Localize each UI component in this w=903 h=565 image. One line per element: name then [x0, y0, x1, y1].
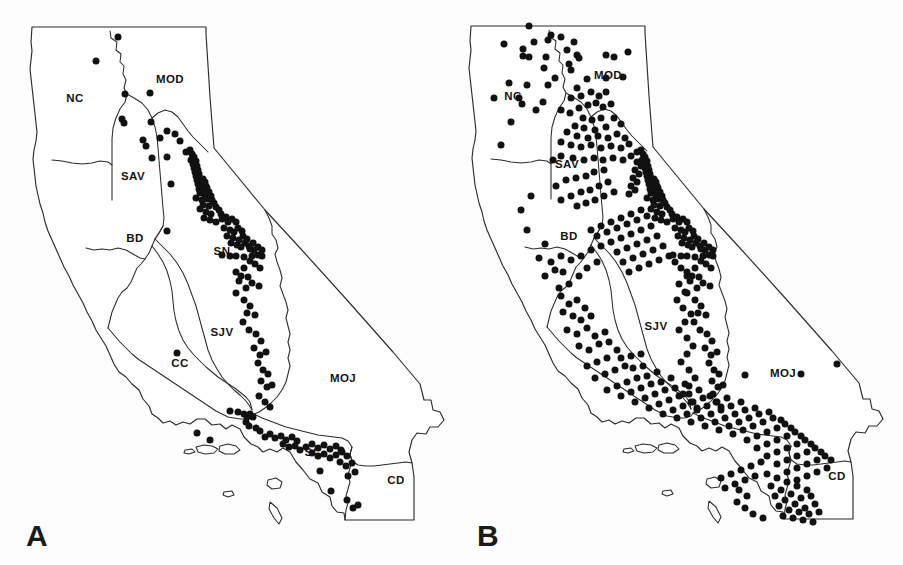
occurrence-dot — [560, 309, 567, 316]
occurrence-dot — [286, 444, 293, 451]
occurrence-dot — [603, 89, 610, 96]
occurrence-dot — [812, 445, 819, 452]
occurrence-dot — [778, 487, 785, 494]
occurrence-dot — [756, 411, 763, 418]
region-label-cc: CC — [171, 357, 188, 369]
occurrence-dot — [595, 133, 602, 140]
occurrence-dot — [786, 507, 793, 514]
occurrence-dot — [706, 360, 713, 367]
occurrence-dot — [652, 391, 659, 398]
occurrence-dot — [618, 145, 625, 152]
occurrence-dot — [748, 463, 755, 470]
occurrence-dot — [543, 54, 550, 61]
occurrence-dot — [558, 139, 565, 146]
occurrence-dot — [684, 219, 691, 226]
occurrence-dot — [578, 317, 585, 324]
island-san-nicolas — [662, 490, 673, 496]
occurrence-dot — [604, 387, 611, 394]
occurrence-dot — [628, 231, 635, 238]
occurrence-dot — [798, 495, 805, 502]
occurrence-dot — [257, 352, 264, 359]
occurrence-dot — [93, 58, 100, 65]
occurrence-dot — [267, 404, 274, 411]
occurrence-dot — [654, 369, 661, 376]
occurrence-dot — [164, 128, 171, 135]
occurrence-dot — [343, 463, 350, 470]
panel-b-letter: B — [477, 521, 499, 551]
occurrence-dot — [784, 469, 791, 476]
occurrence-dot — [792, 429, 799, 436]
occurrence-dot — [708, 411, 715, 418]
region-label-moj: MOJ — [330, 372, 356, 384]
occurrence-dot — [810, 519, 817, 526]
occurrence-dot — [553, 183, 560, 190]
occurrence-dot — [624, 245, 631, 252]
occurrence-dot — [712, 419, 719, 426]
occurrence-dot — [566, 281, 573, 288]
occurrence-dot — [710, 391, 717, 398]
occurrence-dot — [552, 267, 559, 274]
occurrence-dot — [720, 382, 727, 389]
occurrence-dot — [585, 135, 592, 142]
occurrence-dot — [796, 509, 803, 516]
occurrence-dot — [688, 311, 695, 318]
island-anacapa — [623, 448, 634, 453]
occurrence-dot — [703, 312, 710, 319]
occurrence-dot — [808, 493, 815, 500]
occurrence-dot — [542, 241, 549, 248]
occurrence-dot — [572, 123, 579, 130]
occurrence-dot — [259, 253, 266, 260]
occurrence-dot — [611, 115, 618, 122]
occurrence-dot — [702, 423, 709, 430]
occurrence-dot — [652, 215, 659, 222]
occurrence-dot — [640, 363, 647, 370]
occurrence-dot — [662, 387, 669, 394]
occurrence-dot — [678, 359, 685, 366]
occurrence-dot — [618, 235, 625, 242]
occurrence-dot — [540, 99, 547, 106]
occurrence-dot — [834, 361, 841, 368]
occurrence-dot — [574, 331, 581, 338]
occurrence-dot — [201, 215, 208, 222]
occurrence-dot — [227, 408, 234, 415]
occurrence-dot — [766, 409, 773, 416]
occurrence-dot — [692, 265, 699, 272]
region-label-cd: CD — [828, 470, 845, 482]
occurrence-dot — [213, 219, 220, 226]
occurrence-dot — [578, 144, 585, 151]
occurrence-dot — [600, 104, 607, 111]
occurrence-dot — [605, 179, 612, 186]
occurrence-dot — [602, 329, 609, 336]
occurrence-dot — [626, 141, 633, 148]
occurrence-dot — [638, 351, 645, 358]
occurrence-dot — [636, 265, 643, 272]
occurrence-dot — [732, 411, 739, 418]
occurrence-dot — [774, 475, 781, 482]
occurrence-dot — [249, 280, 256, 287]
occurrence-dot — [608, 239, 615, 246]
occurrence-dot — [604, 229, 611, 236]
occurrence-dot — [634, 375, 641, 382]
occurrence-dot — [752, 405, 759, 412]
occurrence-dot — [168, 181, 175, 188]
occurrence-dot — [122, 91, 129, 98]
occurrence-dot — [297, 447, 304, 454]
region-label-sn: SN — [214, 245, 231, 257]
occurrence-dot — [581, 125, 588, 132]
occurrence-dot — [498, 142, 505, 149]
occurrence-dot — [696, 387, 703, 394]
occurrence-dot — [612, 367, 619, 374]
occurrence-dot — [567, 110, 574, 117]
occurrence-dot — [262, 399, 269, 406]
occurrence-dot — [804, 487, 811, 494]
occurrence-dot — [349, 460, 356, 467]
occurrence-dot — [752, 473, 759, 480]
occurrence-dot — [578, 189, 585, 196]
occurrence-dot — [634, 179, 641, 186]
occurrence-dot — [638, 163, 645, 170]
occurrence-dot — [247, 303, 254, 310]
occurrence-dot — [265, 371, 272, 378]
occurrence-dot — [642, 395, 649, 402]
occurrence-dot — [644, 195, 651, 202]
occurrence-dot — [604, 355, 611, 362]
